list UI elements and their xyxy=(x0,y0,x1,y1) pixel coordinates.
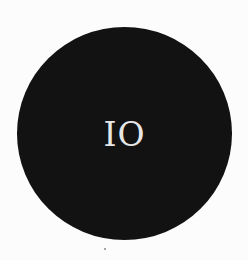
canvas: IO xyxy=(0,0,248,260)
dust-speck xyxy=(104,248,106,250)
badge-label: IO xyxy=(103,118,145,151)
io-badge-circle: IO xyxy=(17,27,232,240)
